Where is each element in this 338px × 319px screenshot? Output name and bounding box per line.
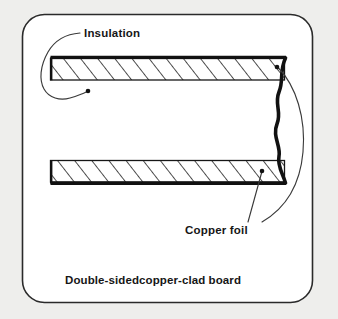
insulation-leader-dot <box>86 89 91 94</box>
figure-screen: Insulation Copper foil Double-sidedcoppe… <box>0 0 338 319</box>
copper-foil-label: Copper foil <box>185 224 248 236</box>
copper-foil-bottom-dot <box>260 169 265 174</box>
insulation-label: Insulation <box>84 27 140 39</box>
bottom-insulation-slab <box>51 161 285 183</box>
copper-foil-top-dot <box>275 65 280 70</box>
figure-caption: Double-sidedcopper-clad board <box>65 274 241 286</box>
technical-diagram: Insulation Copper foil Double-sidedcoppe… <box>0 0 338 319</box>
top-insulation-slab <box>51 59 285 81</box>
